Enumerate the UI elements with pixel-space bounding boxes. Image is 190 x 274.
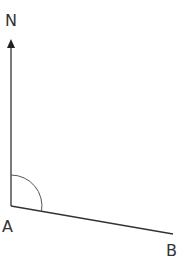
line-ab [11, 206, 173, 234]
vertex-a-label: A [2, 217, 13, 236]
bearing-diagram: N A B [0, 0, 190, 274]
angle-arc [11, 175, 42, 211]
endpoint-b-label: B [166, 241, 177, 260]
north-label: N [5, 11, 17, 30]
north-arrow-icon [7, 39, 15, 48]
